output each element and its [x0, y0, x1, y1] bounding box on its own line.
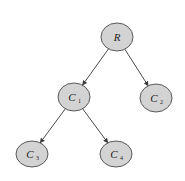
node-c1: C1	[58, 83, 90, 111]
node-label: R	[113, 31, 121, 43]
node-subscript: 1	[78, 98, 81, 104]
node-label: C	[26, 148, 34, 160]
node-subscript: 3	[36, 155, 39, 161]
node-subscript: 2	[160, 99, 163, 105]
node-subscript: 4	[120, 155, 123, 161]
node-c3: C3	[16, 141, 48, 167]
edge-c1-to-c3	[40, 109, 65, 143]
edge-r-to-c1	[83, 49, 109, 85]
node-label: C	[110, 148, 118, 160]
edge-c1-to-c4	[83, 109, 108, 143]
node-r: R	[101, 23, 133, 51]
node-label: C	[150, 92, 158, 104]
edge-r-to-c2	[125, 49, 148, 86]
node-c4: C4	[100, 141, 132, 167]
tree-diagram: RC1C2C3C4	[0, 0, 185, 181]
edges-group	[40, 49, 148, 143]
node-c2: C2	[140, 84, 172, 112]
node-label: C	[68, 91, 76, 103]
nodes-group: RC1C2C3C4	[16, 23, 172, 167]
